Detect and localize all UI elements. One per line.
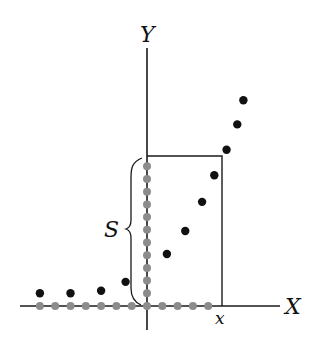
black-point	[97, 287, 105, 295]
gray-x-point	[97, 302, 105, 310]
diagram-figure: Y X x S	[0, 0, 315, 359]
gray-x-point	[36, 302, 44, 310]
gray-y-point	[143, 200, 151, 208]
black-point	[222, 146, 230, 154]
s-brace-label: S	[104, 217, 119, 242]
black-point	[181, 227, 189, 235]
black-point	[66, 289, 74, 297]
black-point	[163, 250, 171, 258]
x-axis-label: X	[283, 294, 302, 319]
y-axis-label: Y	[140, 22, 157, 47]
gray-x-point	[143, 302, 151, 310]
gray-y-point	[143, 264, 151, 272]
gray-x-point	[51, 302, 59, 310]
black-points-group	[36, 96, 248, 297]
black-point	[198, 198, 206, 206]
gray-y-point	[143, 289, 151, 297]
black-point	[210, 171, 218, 179]
gray-y-point	[143, 175, 151, 183]
black-point	[36, 289, 44, 297]
gray-x-point	[189, 302, 197, 310]
black-point	[233, 120, 241, 128]
gray-x-point	[128, 302, 136, 310]
gray-x-point	[82, 302, 90, 310]
gray-x-point	[158, 302, 166, 310]
gray-y-point	[143, 188, 151, 196]
gray-points-group	[36, 162, 212, 310]
gray-x-point	[174, 302, 182, 310]
gray-y-point	[143, 213, 151, 221]
gray-y-point	[143, 251, 151, 259]
gray-x-point	[112, 302, 120, 310]
gray-y-point	[143, 226, 151, 234]
gray-y-point	[143, 162, 151, 170]
black-point	[239, 96, 247, 104]
gray-y-point	[143, 277, 151, 285]
x-marker-label: x	[215, 308, 225, 328]
black-point	[121, 278, 129, 286]
gray-x-point	[67, 302, 75, 310]
gray-y-point	[143, 239, 151, 247]
gray-x-point	[204, 302, 212, 310]
